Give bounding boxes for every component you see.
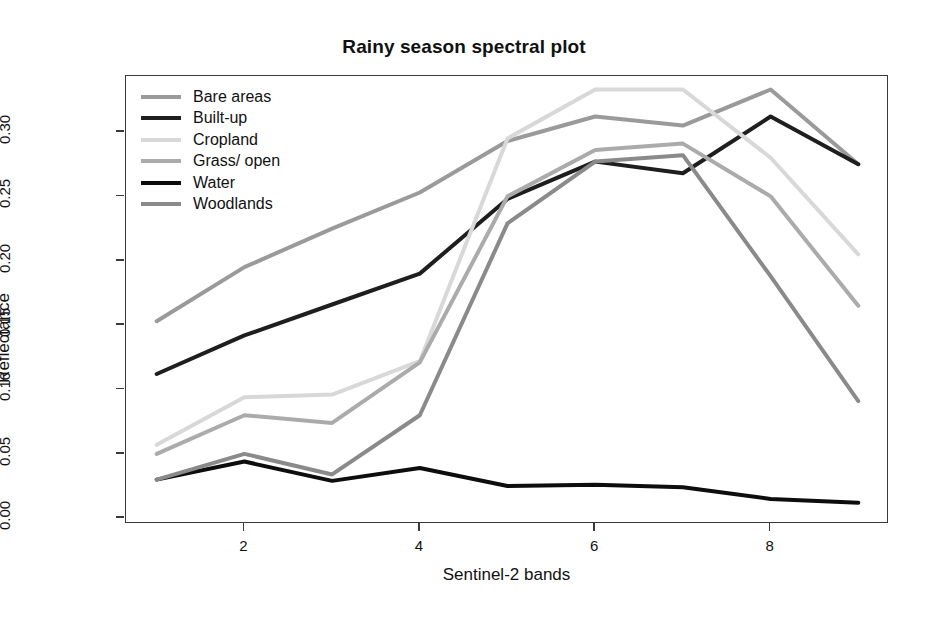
y-tick-label: 0.30 — [0, 100, 13, 160]
y-tick-label: 0.25 — [0, 164, 13, 224]
x-axis-label: Sentinel-2 bands — [125, 565, 888, 585]
y-tick-mark — [116, 323, 124, 325]
legend-item: Grass/ open — [141, 151, 341, 173]
legend-item: Woodlands — [141, 194, 341, 216]
legend-item-label: Water — [193, 175, 235, 191]
legend-swatch-line — [141, 95, 181, 99]
legend-item-label: Bare areas — [193, 89, 271, 105]
page-title: Rainy season spectral plot — [0, 36, 928, 58]
legend-item-label: Woodlands — [193, 196, 273, 212]
legend-item: Cropland — [141, 129, 341, 151]
legend: Bare areasBuilt-upCroplandGrass/ openWat… — [141, 86, 341, 215]
x-tick-label: 4 — [404, 537, 434, 554]
legend-item-label: Cropland — [193, 132, 258, 148]
x-tick-mark — [593, 523, 595, 531]
legend-swatch-line — [141, 138, 181, 142]
legend-item: Water — [141, 172, 341, 194]
y-axis-label: Reflectance — [0, 238, 14, 438]
x-tick-mark — [418, 523, 420, 531]
legend-swatch-line — [141, 181, 181, 185]
legend-item: Bare areas — [141, 86, 341, 108]
x-tick-label: 8 — [755, 537, 785, 554]
legend-item: Built-up — [141, 108, 341, 130]
y-tick-mark — [116, 388, 124, 390]
series-line — [157, 462, 859, 503]
figure-canvas: Rainy season spectral plot 0.000.050.100… — [0, 0, 928, 621]
x-tick-mark — [243, 523, 245, 531]
y-tick-mark — [116, 516, 124, 518]
legend-swatch-line — [141, 202, 181, 206]
x-tick-label: 2 — [228, 537, 258, 554]
legend-item-label: Built-up — [193, 110, 247, 126]
legend-swatch-line — [141, 116, 181, 120]
legend-swatch-line — [141, 159, 181, 163]
y-tick-mark — [116, 130, 124, 132]
y-tick-mark — [116, 259, 124, 261]
x-tick-mark — [769, 523, 771, 531]
y-tick-label: 0.00 — [0, 486, 13, 546]
y-tick-mark — [116, 452, 124, 454]
legend-item-label: Grass/ open — [193, 153, 280, 169]
x-tick-label: 6 — [579, 537, 609, 554]
y-tick-mark — [116, 195, 124, 197]
